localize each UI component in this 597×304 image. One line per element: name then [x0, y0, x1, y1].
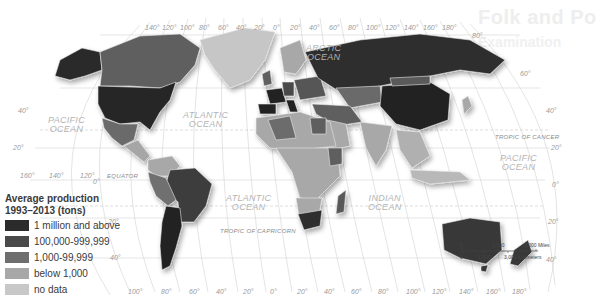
lat-right: 60° — [520, 70, 531, 77]
lat-right: 20° — [551, 144, 562, 151]
indonesia — [410, 170, 470, 184]
legend-swatch — [5, 236, 29, 247]
china — [380, 82, 450, 130]
lon-top: 80° — [199, 24, 210, 31]
tropic-of-cancer-label: TROPIC OF CANCER — [495, 134, 559, 140]
lon-bottom: 120° — [432, 288, 446, 295]
ethiopia — [328, 148, 342, 166]
lat-right: 80° — [472, 32, 483, 39]
lat-right: 20° — [548, 218, 559, 225]
lon-bottom: 80° — [378, 288, 389, 295]
kazakhstan — [336, 86, 382, 108]
lon-bottom: 140° — [49, 172, 63, 179]
ocean-label-arctic: ARCTICOCEAN — [306, 44, 341, 63]
legend-swatch — [5, 252, 29, 263]
mongolia — [390, 76, 430, 86]
lat-left: 20° — [13, 144, 24, 151]
japan — [462, 96, 472, 114]
lon-bottom: 60° — [189, 288, 200, 295]
argentina-chile — [160, 206, 182, 270]
equator-label: EQUATOR — [107, 173, 138, 179]
lat-right: 40° — [546, 107, 557, 114]
legend: Average production 1993–2013 (tons) 1 mi… — [5, 193, 125, 296]
lon-top: 180° — [442, 24, 456, 31]
scale-miles-2: 3,000 Miles — [524, 242, 550, 248]
legend-title: Average production 1993–2013 (tons) — [5, 193, 125, 216]
lon-bottom: 140° — [459, 288, 473, 295]
legend-item-1k: 1,000-99,999 — [5, 251, 125, 264]
legend-item-1m-plus: 1 million and above — [5, 219, 125, 232]
lon-top: 80° — [348, 24, 359, 31]
lon-bottom: 0° — [270, 288, 277, 295]
lon-top: 60° — [329, 24, 340, 31]
canada — [100, 34, 200, 88]
scale-km-1: 1,500 — [478, 254, 491, 260]
ocean-label-pacific-west: PACIFICOCEAN — [48, 116, 85, 135]
legend-item-100k: 100,000-999,999 — [5, 235, 125, 248]
ocean-label-atlantic-north: ATLANTICOCEAN — [183, 111, 228, 130]
alaska — [55, 48, 102, 80]
lon-top: 120° — [162, 24, 176, 31]
scale-km-0: 0 — [460, 254, 463, 260]
uk — [262, 70, 272, 86]
lon-top: 20° — [254, 24, 265, 31]
lat-left: 0° — [93, 178, 100, 185]
lon-bottom: 80° — [161, 288, 172, 295]
lon-bottom: 100° — [128, 288, 142, 295]
lon-bottom: 160° — [20, 172, 34, 179]
lon-top: 20° — [290, 24, 301, 31]
lon-top: 40° — [309, 24, 320, 31]
lon-top: 0° — [273, 24, 280, 31]
scale-miles-0: 0 — [460, 242, 463, 248]
lon-top: 60° — [218, 24, 229, 31]
lon-bottom: 160° — [486, 288, 500, 295]
lon-bottom: 60° — [351, 288, 362, 295]
ocean-label-atlantic-south: ATLANTICOCEAN — [226, 194, 271, 213]
india — [360, 122, 392, 166]
lon-top: 100° — [180, 24, 194, 31]
lon-top: 40° — [236, 24, 247, 31]
tropic-of-capricorn-label: TROPIC OF CAPRICORN — [220, 228, 296, 234]
lon-bottom: 40° — [324, 288, 335, 295]
legend-swatch — [5, 268, 29, 279]
legend-item-no-data: no data — [5, 283, 125, 296]
tasmania — [481, 265, 488, 272]
ocean-label-indian: INDIANOCEAN — [368, 194, 402, 213]
lat-left: 40° — [18, 107, 29, 114]
lon-bottom: 40° — [216, 288, 227, 295]
madagascar — [336, 190, 346, 214]
lon-top: 120° — [385, 24, 399, 31]
lon-bottom: 20° — [297, 288, 308, 295]
scale-bar: 0 1,500 3,000 Miles 0 1,500 3,000 Kilome… — [460, 242, 560, 262]
southeast-asia — [396, 130, 430, 168]
lon-top: 100° — [366, 24, 380, 31]
legend-swatch — [5, 284, 29, 295]
lon-bottom: 180° — [512, 288, 526, 295]
scale-miles-1: 1,500 — [492, 242, 505, 248]
ocean-label-pacific-east: PACIFICOCEAN — [500, 154, 537, 173]
legend-swatch — [5, 220, 29, 231]
scandinavia — [280, 40, 306, 74]
lon-top: 160° — [423, 24, 437, 31]
legend-item-below-1k: below 1,000 — [5, 267, 125, 280]
egypt — [310, 118, 326, 134]
scale-km-2: 3,000 Kilometers — [504, 254, 542, 260]
spain — [258, 104, 276, 114]
germany — [282, 82, 294, 96]
lon-top: 140° — [145, 24, 159, 31]
lon-top: 140° — [404, 24, 418, 31]
lon-bottom: 20° — [243, 288, 254, 295]
lat-right: 0° — [552, 181, 559, 188]
lon-bottom: 100° — [406, 288, 420, 295]
